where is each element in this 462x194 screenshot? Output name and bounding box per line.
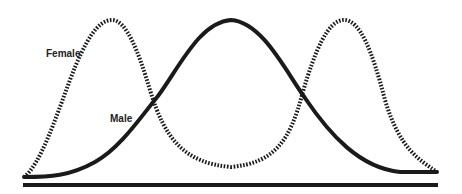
male-label: Male xyxy=(110,113,132,124)
female-curve xyxy=(24,20,437,177)
curves-canvas xyxy=(0,0,462,194)
female-label: Female xyxy=(46,48,80,59)
